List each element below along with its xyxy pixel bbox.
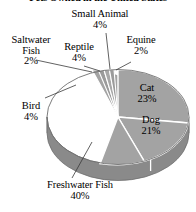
slice-label-saltwater-fish: Saltwater Fish 2% [2,35,60,67]
slice-label-cat-pct: 23% [127,94,167,105]
slice-label-freshwater-fish: Freshwater Fish 40% [20,180,140,201]
slice-label-bird-pct: 4% [10,112,52,123]
slice-label-small-animal-pct: 4% [52,20,148,31]
slice-label-dog: Dog 21% [131,115,171,136]
slice-label-freshwater-fish-pct: 40% [20,191,140,202]
slice-label-bird: Bird 4% [10,101,52,122]
slice-label-equine: Equine 2% [117,35,165,56]
leader-line-small-animal [106,33,110,69]
slice-label-cat: Cat 23% [127,83,167,104]
slice-label-saltwater-fish-pct: 2% [2,56,60,67]
slice-label-dog-pct: 21% [131,126,171,137]
leader-line-equine [116,62,131,70]
leader-line-bird [45,85,76,98]
slice-label-equine-pct: 2% [117,46,165,57]
slice-label-small-animal: Small Animal 4% [52,9,148,30]
slice-label-reptile: Reptile 4% [56,42,102,63]
slice-label-reptile-pct: 4% [56,53,102,64]
pie-chart-figure: Pets Owned in the United States [0,0,196,212]
